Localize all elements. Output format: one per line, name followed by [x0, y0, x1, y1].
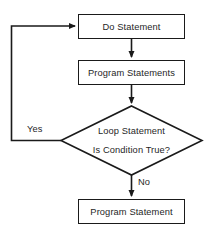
edge-label-no: No [138, 177, 150, 187]
node-do-statement[interactable]: Do Statement [78, 14, 185, 39]
decision-diamond-shape [61, 106, 202, 175]
node-program-statements-label: Program Statements [88, 68, 175, 78]
edge-label-yes: Yes [27, 124, 42, 134]
node-program-statements[interactable]: Program Statements [78, 60, 185, 85]
flowchart-canvas: Do Statement Program Statements Loop Sta… [0, 0, 211, 235]
edge-yes-loopback [12, 26, 76, 141]
node-program-statement-label: Program Statement [90, 207, 172, 217]
node-program-statement[interactable]: Program Statement [78, 199, 185, 224]
node-do-statement-label: Do Statement [102, 22, 160, 32]
